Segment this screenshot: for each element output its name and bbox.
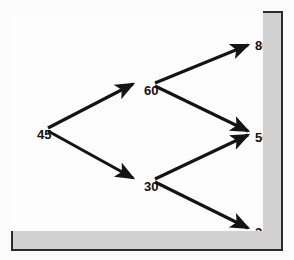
tree-edge-up-to-leaf2 <box>155 86 248 131</box>
tree-edge-up-to-leaf1 <box>155 45 248 83</box>
tree-node-label-root: 45 <box>37 128 51 141</box>
tree-node-label-leaf2: 50 <box>255 131 263 144</box>
tree-edge-group <box>48 45 248 228</box>
diagram-canvas: 456030805020 <box>11 11 263 231</box>
tree-node-label-down: 30 <box>144 180 158 193</box>
tree-edge-down-to-leaf2 <box>155 135 248 179</box>
tree-node-label-up: 60 <box>144 84 158 97</box>
tree-node-label-leaf1: 80 <box>255 39 263 52</box>
tree-edge-root-to-down <box>48 131 133 178</box>
tree-edge-root-to-up <box>48 84 133 128</box>
tree-node-label-leaf3: 20 <box>255 226 263 231</box>
decision-tree-graphic <box>11 11 263 231</box>
figure-page: 456030805020 <box>0 0 294 260</box>
tree-edge-down-to-leaf3 <box>155 182 248 228</box>
